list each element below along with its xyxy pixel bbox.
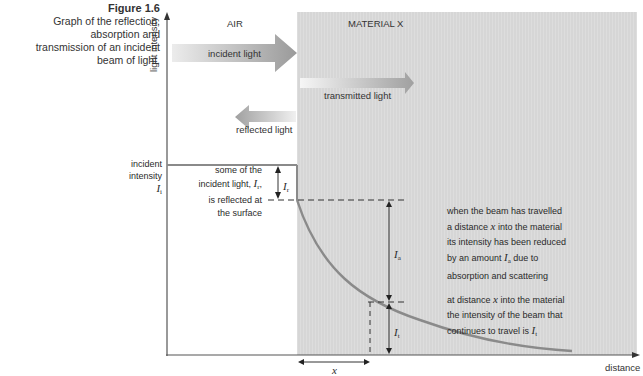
ia-double-arrow bbox=[386, 201, 392, 301]
air-region-label: AIR bbox=[227, 18, 243, 29]
material-region-label: MATERIAL X bbox=[348, 18, 403, 29]
transmission-note: at distance x into the material the inte… bbox=[447, 292, 564, 342]
note-text: by an amount bbox=[447, 253, 504, 263]
ia-subscript: a bbox=[398, 254, 401, 262]
absorption-note: when the beam has travelled a distance x… bbox=[447, 204, 566, 284]
ir-subscript: r bbox=[287, 186, 289, 194]
it-double-arrow bbox=[386, 303, 392, 354]
x-label: x bbox=[332, 364, 337, 376]
note-line: some of the bbox=[180, 164, 262, 177]
ir-label: Ir bbox=[283, 176, 289, 194]
ii-subscript: i bbox=[160, 188, 162, 196]
y-axis-label: light intensity bbox=[148, 17, 159, 72]
note-text: at distance bbox=[447, 295, 493, 305]
ir-double-arrow bbox=[275, 166, 281, 199]
ia-label: Ia bbox=[394, 244, 401, 262]
note-line: absorption and scattering bbox=[447, 269, 566, 284]
reflection-note: some of the incident light, Ir, is refle… bbox=[180, 164, 262, 220]
note-text: due to bbox=[511, 253, 539, 263]
note-line: incident light, bbox=[198, 179, 253, 189]
note-text: into the material bbox=[498, 295, 565, 305]
comma: , bbox=[259, 179, 262, 189]
note-line: when the beam has travelled bbox=[447, 204, 566, 219]
incident-text: incident bbox=[100, 158, 162, 170]
it-label: It bbox=[394, 322, 400, 340]
reflected-light-label: reflected light bbox=[236, 124, 293, 135]
it-subscript: t bbox=[535, 330, 537, 338]
y-axis bbox=[164, 12, 170, 356]
note-text: continues to travel is bbox=[447, 326, 532, 336]
transmitted-light-label: transmitted light bbox=[324, 90, 391, 101]
note-text: into the material bbox=[495, 222, 562, 232]
note-line: the intensity of the beam that bbox=[447, 308, 564, 323]
note-line: is reflected at bbox=[180, 194, 262, 207]
note-line: the surface bbox=[180, 207, 262, 220]
x-axis-label: distance bbox=[605, 362, 640, 373]
note-line: its intensity has been reduced bbox=[447, 235, 566, 250]
intensity-text: intensity bbox=[100, 170, 162, 182]
incident-intensity-label: incident intensity Ii bbox=[100, 158, 162, 198]
x-axis bbox=[166, 352, 640, 358]
incident-light-label: incident light bbox=[208, 48, 261, 59]
note-text: a distance bbox=[447, 222, 491, 232]
it-subscript: t bbox=[398, 332, 400, 340]
